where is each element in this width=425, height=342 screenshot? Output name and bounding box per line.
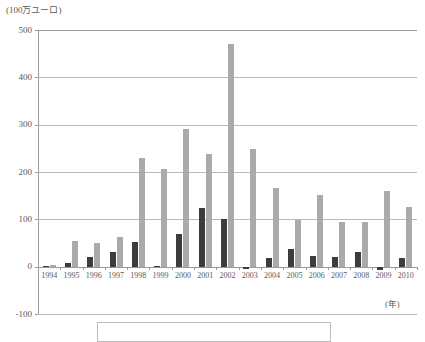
bar-dark-series-2004 [266,258,272,267]
bar-dark-series-1998 [132,242,138,267]
bar-dark-series-2006 [310,256,316,266]
bar-light-series-1997 [117,237,123,266]
bar-light-series-1994 [50,265,56,266]
y-tick-mark--100 [35,314,38,315]
bar-light-series-1999 [161,169,167,267]
bar-light-series-1998 [139,158,145,266]
x-tick-mark-2000 [172,267,173,270]
bar-dark-series-2007 [332,257,338,266]
x-tick-mark-2001 [194,267,195,270]
bar-light-series-2009 [384,191,390,267]
x-tick-mark-2003 [239,267,240,270]
bar-light-series-2010 [406,207,412,267]
plot-area: 5004003002001000-100 1994199519961997199… [38,30,417,314]
bar-dark-series-2001 [199,208,205,267]
bar-dark-series-1996 [87,257,93,266]
bar-dark-series-1994 [43,266,49,267]
bar-light-series-2008 [362,222,368,267]
x-tick-mark-2002 [216,267,217,270]
bar-light-series-1996 [94,243,100,267]
x-tick-mark-2006 [306,267,307,270]
y-axis-unit-label: (100万ユーロ) [6,3,62,16]
bar-dark-series-1995 [65,263,71,266]
x-tick-mark-1998 [127,267,128,270]
bar-dark-series-2010 [399,258,405,267]
y-tick-label-400: 400 [0,73,32,82]
bar-dark-series-2005 [288,249,294,267]
bar-dark-series-1997 [110,252,116,267]
x-tick-mark-end [417,267,418,270]
x-tick-mark-2009 [372,267,373,270]
bar-dark-series-2008 [355,252,361,266]
x-tick-mark-1997 [105,267,106,270]
x-tick-mark-1996 [83,267,84,270]
bar-light-series-2007 [339,222,345,267]
bar-dark-series-2003 [243,267,249,269]
y-tick-label-0: 0 [0,262,32,271]
x-tick-mark-2004 [261,267,262,270]
legend [97,322,331,342]
bar-dark-series-2002 [221,219,227,266]
y-tick-label-300: 300 [0,120,32,129]
x-tick-mark-1995 [60,267,61,270]
y-tick-label-500: 500 [0,26,32,35]
x-tick-label-2010: 2010 [393,272,419,280]
y-tick-label-100: 100 [0,215,32,224]
bar-light-series-2005 [295,220,301,266]
bar-light-series-2001 [206,154,212,266]
x-axis-unit-label: (年) [385,297,400,309]
x-tick-mark-2005 [283,267,284,270]
bar-dark-series-1999 [154,266,160,267]
x-tick-mark-2008 [350,267,351,270]
x-tick-mark-1994 [38,267,39,270]
bar-light-series-2006 [317,195,323,267]
y-tick-label-200: 200 [0,168,32,177]
bar-light-series-2000 [183,129,189,267]
bar-light-series-2004 [273,188,279,267]
x-tick-mark-1999 [149,267,150,270]
x-tick-mark-2010 [395,267,396,270]
bar-light-series-2003 [250,149,256,266]
bar-light-series-2002 [228,44,234,266]
gridline--100 [38,314,417,315]
y-tick-label--100: -100 [0,310,32,319]
bar-light-series-1995 [72,241,78,267]
bar-dark-series-2009 [377,267,383,270]
x-tick-mark-2007 [328,267,329,270]
bar-dark-series-2000 [176,234,182,267]
